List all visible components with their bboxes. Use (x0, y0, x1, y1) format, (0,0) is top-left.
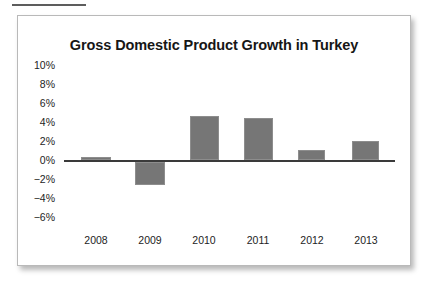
y-axis-tick-label: 6% (15, 97, 55, 109)
x-axis-tick-label: 2008 (84, 234, 107, 246)
zero-axis-line (64, 160, 395, 162)
plot-area: 10% 8% 6% 4% 2% 0% −2% −4% −6% 2008 2009… (18, 16, 410, 265)
bar-2013 (352, 141, 379, 160)
bar-2009 (135, 162, 165, 185)
y-axis-tick-label: 0% (15, 154, 55, 166)
chart-card: Gross Domestic Product Growth in Turkey … (17, 15, 411, 266)
y-axis-tick-label: 8% (15, 78, 55, 90)
y-axis-tick-label: −6% (15, 211, 55, 223)
y-axis-tick-label: −4% (15, 192, 55, 204)
y-axis-tick-label: 10% (15, 59, 55, 71)
bar-2011 (244, 118, 273, 160)
x-axis-tick-label: 2012 (300, 234, 323, 246)
x-axis-tick-label: 2010 (192, 234, 215, 246)
bar-2010 (190, 116, 219, 160)
y-axis-tick-label: 4% (15, 116, 55, 128)
bar-2008 (81, 157, 111, 160)
y-axis-tick-label: 2% (15, 135, 55, 147)
x-axis-tick-label: 2009 (138, 234, 161, 246)
x-axis-tick-label: 2011 (247, 234, 270, 246)
bar-2012 (298, 150, 325, 160)
x-axis-tick-label: 2013 (354, 234, 377, 246)
top-divider-rule (12, 4, 86, 6)
y-axis-tick-label: −2% (15, 173, 55, 185)
